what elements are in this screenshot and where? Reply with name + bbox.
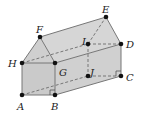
point-a bbox=[20, 93, 25, 98]
label-b: B bbox=[50, 101, 58, 112]
diagram-svg: A B G H F E D C I J bbox=[0, 0, 141, 117]
point-d bbox=[119, 42, 124, 47]
label-f: F bbox=[35, 24, 44, 35]
point-b bbox=[53, 93, 58, 98]
label-c: C bbox=[126, 72, 134, 83]
label-e: E bbox=[101, 4, 110, 15]
point-h bbox=[20, 61, 25, 66]
label-g: G bbox=[59, 67, 67, 78]
point-i bbox=[86, 42, 91, 47]
point-f bbox=[38, 35, 43, 40]
point-e bbox=[104, 15, 109, 20]
label-d: D bbox=[125, 39, 134, 50]
prism-diagram: A B G H F E D C I J bbox=[0, 0, 141, 117]
label-a: A bbox=[16, 101, 24, 112]
point-c bbox=[119, 74, 124, 79]
label-j: J bbox=[88, 67, 95, 78]
label-h: H bbox=[7, 58, 17, 69]
point-g bbox=[53, 61, 58, 66]
